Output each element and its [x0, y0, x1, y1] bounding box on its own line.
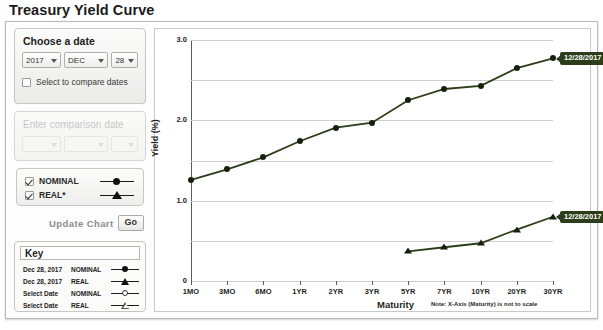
app-frame: Choose a date 2017 DEC 28 [5, 21, 598, 319]
chevron-down-icon [128, 143, 134, 147]
key-marker-filled-triangle [111, 276, 139, 286]
key-row: Dec 28, 2017 NOMINAL [20, 263, 140, 275]
data-point-nominal-1YR [297, 138, 303, 144]
real-label: REAL* [39, 190, 95, 200]
real-marker-swatch [100, 190, 134, 200]
key-row-date: Dec 28, 2017 [23, 266, 71, 273]
x-tick-label: 1YR [292, 287, 307, 296]
x-tick-label: 10YR [471, 287, 490, 296]
treasury-yield-curve-page: Treasury Yield Curve Choose a date 2017 … [0, 0, 603, 330]
chevron-down-icon [98, 59, 104, 63]
comparison-date-select-group [22, 136, 138, 152]
plot-wrap: Yield (%) 01.02.03.0 Maturity Note: X-Ax… [155, 29, 592, 313]
key-marker-open-triangle [111, 300, 139, 310]
chevron-down-icon [128, 59, 134, 63]
x-tick-label: 5YR [401, 287, 416, 296]
y-tick-label: 0 [167, 276, 187, 285]
data-point-real-20YR [513, 226, 521, 232]
chevron-down-icon [51, 59, 57, 63]
key-marker-filled-circle [111, 264, 139, 274]
data-point-nominal-20YR [514, 65, 520, 71]
y-axis-title: Yield (%) [150, 119, 160, 157]
data-point-nominal-7YR [441, 86, 447, 92]
x-tick [191, 281, 192, 285]
x-axis-title: Maturity [377, 299, 414, 310]
x-tick [444, 281, 445, 285]
y-tick-label: 3.0 [167, 35, 187, 44]
x-tick-label: 1MO [183, 287, 199, 296]
month-select-value: DEC [68, 56, 85, 65]
x-tick-label: 6MO [255, 287, 271, 296]
year-select-value: 2017 [26, 56, 44, 65]
page-title: Treasury Yield Curve [9, 2, 154, 18]
circle-outline-marker-icon [122, 290, 128, 296]
nominal-label: NOMINAL [39, 176, 95, 186]
go-button[interactable]: Go [118, 215, 145, 231]
comparison-year-select [22, 136, 61, 152]
day-select-value: 28 [115, 56, 124, 65]
y-tick-labels: 01.02.03.0 [165, 29, 187, 313]
real-checkbox[interactable] [25, 191, 34, 200]
chevron-down-icon [51, 143, 57, 147]
x-tick [553, 281, 554, 285]
x-tick [517, 281, 518, 285]
chevron-down-icon [98, 143, 104, 147]
key-row-date: Select Date [23, 290, 71, 297]
day-select[interactable]: 28 [111, 52, 138, 68]
triangle-marker-icon [112, 191, 122, 199]
data-point-nominal-6MO [260, 154, 266, 160]
key-row-type: NOMINAL [71, 266, 111, 273]
compare-dates-checkbox[interactable] [22, 78, 31, 87]
data-point-real-7YR [440, 244, 448, 250]
x-tick-label: 7YR [437, 287, 452, 296]
comparison-date-panel: Enter comparison date [14, 111, 146, 161]
series-toggle-panel: NOMINAL REAL* [16, 168, 144, 206]
choose-date-panel: Choose a date 2017 DEC 28 [14, 28, 146, 104]
date-select-group: 2017 DEC 28 [22, 52, 138, 68]
year-select[interactable]: 2017 [22, 52, 61, 68]
key-title: Key [20, 246, 140, 260]
key-row: Dec 28, 2017 REAL [20, 275, 140, 287]
series-toggle-nominal[interactable]: NOMINAL [25, 174, 135, 188]
data-point-nominal-5YR [405, 97, 411, 103]
x-tick-label: 30YR [544, 287, 563, 296]
update-chart-row: Update Chart Go [18, 213, 144, 233]
data-point-nominal-3MO [224, 166, 230, 172]
chart-panel: Yield (%) 01.02.03.0 Maturity Note: X-Ax… [154, 28, 591, 312]
y-tick-label: 2.0 [167, 115, 187, 124]
data-point-nominal-10YR [478, 83, 484, 89]
plot-area [191, 40, 553, 281]
month-select[interactable]: DEC [64, 52, 108, 68]
nominal-checkbox[interactable] [25, 177, 34, 186]
circle-marker-icon [113, 178, 120, 185]
key-row: Select Date REAL [20, 299, 140, 311]
x-tick [227, 281, 228, 285]
key-row-date: Select Date [23, 302, 71, 309]
key-row-type: REAL [71, 278, 111, 285]
data-point-nominal-1MO [188, 177, 194, 183]
x-tick [408, 281, 409, 285]
series-lines [191, 40, 553, 281]
data-point-real-5YR [404, 248, 412, 254]
comparison-month-select [64, 136, 108, 152]
series-toggle-real[interactable]: REAL* [25, 188, 135, 202]
x-tick [372, 281, 373, 285]
x-tick-label: 3YR [365, 287, 380, 296]
triangle-outline-fill [123, 304, 129, 308]
update-chart-label: Update Chart [49, 218, 113, 229]
key-row-date: Dec 28, 2017 [23, 278, 71, 285]
x-tick [300, 281, 301, 285]
callout-nominal: 12/28/2017 [560, 52, 603, 65]
x-tick-label: 3MO [219, 287, 235, 296]
x-tick [263, 281, 264, 285]
x-tick-label: 2YR [329, 287, 344, 296]
data-point-nominal-2YR [333, 125, 339, 131]
key-row: Select Date NOMINAL [20, 287, 140, 299]
comparison-date-title: Enter comparison date [23, 119, 138, 130]
key-panel: Key Dec 28, 2017 NOMINAL Dec 28, 2017 RE… [14, 241, 146, 312]
choose-date-title: Choose a date [23, 35, 138, 47]
compare-dates-label: Select to compare dates [36, 77, 128, 87]
series-line-real [408, 217, 553, 252]
compare-dates-row[interactable]: Select to compare dates [22, 77, 138, 87]
y-tick-label: 1.0 [167, 196, 187, 205]
